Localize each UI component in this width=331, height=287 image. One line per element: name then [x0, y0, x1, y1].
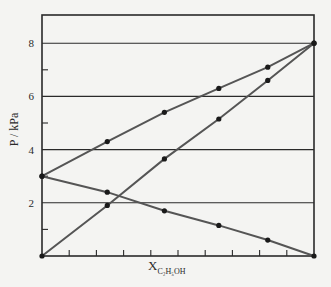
data-point — [105, 139, 110, 144]
plot-frame — [42, 15, 314, 256]
y-tick-label: 8 — [29, 37, 35, 49]
series-line — [42, 176, 314, 256]
data-point — [216, 223, 221, 228]
data-point — [265, 78, 270, 83]
data-point — [39, 174, 44, 179]
series-line — [42, 43, 314, 176]
data-point — [39, 253, 44, 258]
y-axis-label: P / kPa — [4, 100, 24, 160]
data-point — [216, 86, 221, 91]
y-tick-label: 6 — [29, 90, 35, 102]
data-point — [162, 110, 167, 115]
y-tick-label: 4 — [29, 144, 35, 156]
data-point — [105, 203, 110, 208]
data-point — [162, 208, 167, 213]
y-tick-label: 2 — [29, 197, 35, 209]
data-point — [105, 190, 110, 195]
chart-plot: 2468 — [0, 0, 331, 287]
data-point — [265, 237, 270, 242]
x-axis-label: XC₂H₅OH — [148, 258, 186, 276]
data-point — [311, 41, 316, 46]
data-point — [311, 253, 316, 258]
data-point — [265, 65, 270, 70]
data-point — [216, 116, 221, 121]
data-point — [162, 156, 167, 161]
